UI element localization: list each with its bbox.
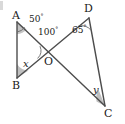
- angle-label-o: 100°: [38, 26, 58, 37]
- angle-label-a: 50°: [29, 13, 43, 24]
- degree-symbol-d: °: [83, 23, 86, 30]
- vertex-label-c: C: [104, 108, 112, 119]
- angle-label-d: 65°: [72, 24, 86, 35]
- degree-symbol-a: °: [40, 12, 43, 19]
- angle-label-y: y: [93, 85, 99, 95]
- vertex-label-o: O: [44, 56, 53, 67]
- vertex-label-a: A: [12, 10, 20, 21]
- degree-symbol-o: °: [55, 25, 58, 32]
- angle-value-a: 50: [29, 14, 40, 24]
- geometry-diagram: A B C D O 50° 100° 65° x y: [0, 0, 125, 124]
- vertex-label-b: B: [12, 80, 20, 91]
- angle-value-d: 65: [72, 25, 83, 35]
- vertex-label-d: D: [84, 3, 93, 14]
- angle-label-x: x: [23, 59, 29, 69]
- angle-value-o: 100: [38, 27, 55, 37]
- angle-arc-o: [38, 46, 41, 58]
